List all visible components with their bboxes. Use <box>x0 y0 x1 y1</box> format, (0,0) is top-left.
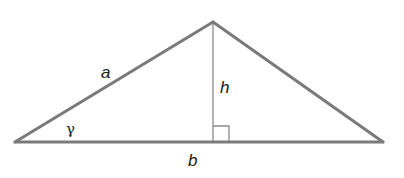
label-h: h <box>220 78 229 97</box>
triangle-diagram: a h γ b <box>0 0 404 178</box>
label-gamma: γ <box>66 120 75 138</box>
label-a: a <box>101 63 110 82</box>
side-c <box>213 22 383 142</box>
right-angle-marker <box>213 126 229 142</box>
label-b: b <box>188 151 197 170</box>
side-a <box>15 22 213 142</box>
